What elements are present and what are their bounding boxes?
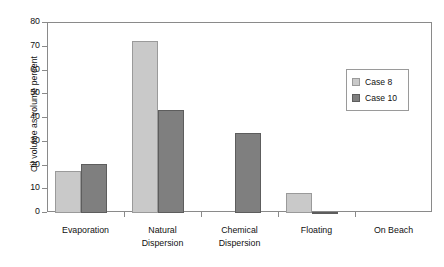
y-axis-tick-label: 50 (2, 88, 40, 97)
x-axis-tick (278, 212, 279, 217)
x-axis-tick (355, 212, 356, 217)
x-axis-category-label: On Beach (355, 224, 432, 237)
legend-item-case-8: Case 8 (352, 76, 392, 88)
y-axis-tick-label: 60 (2, 65, 40, 74)
x-axis-category-label: Floating (278, 224, 355, 237)
legend-label-case-8: Case 8 (365, 78, 392, 87)
y-axis-tick-label: 10 (2, 183, 40, 192)
plot-area (47, 22, 432, 212)
bar-case-8-natural-dispersion (132, 41, 158, 213)
bar-case-10-natural-dispersion (158, 110, 184, 213)
y-axis-tick-label: 20 (2, 160, 40, 169)
bar-case-10-chemical-dispersion (235, 133, 261, 213)
y-axis-tick-label: 40 (2, 112, 40, 121)
x-axis-tick (201, 212, 202, 217)
legend-label-case-10: Case 10 (365, 94, 397, 103)
bar-case-8-floating (286, 193, 312, 213)
bar-chart: Oil volume as volume percent 01020304050… (0, 0, 444, 267)
bar-case-8-evaporation (55, 171, 81, 213)
legend-item-case-10: Case 10 (352, 92, 397, 104)
x-axis-category-label: ChemicalDispersion (201, 224, 278, 250)
y-axis-tick-label: 0 (2, 207, 40, 216)
y-axis-tick-label: 70 (2, 41, 40, 50)
bar-case-10-floating (312, 212, 338, 214)
y-axis-tick-label: 80 (2, 17, 40, 26)
x-axis-tick (124, 212, 125, 217)
legend-swatch-icon-case-10 (352, 94, 360, 102)
legend-swatch-icon-case-8 (352, 78, 360, 86)
x-axis-category-label: Evaporation (47, 224, 124, 237)
chart-legend: Case 8 Case 10 (346, 69, 409, 111)
y-axis-tick (42, 212, 47, 213)
y-axis-tick-label: 30 (2, 136, 40, 145)
x-axis-category-label: NaturalDispersion (124, 224, 201, 250)
bar-case-10-evaporation (81, 164, 107, 213)
